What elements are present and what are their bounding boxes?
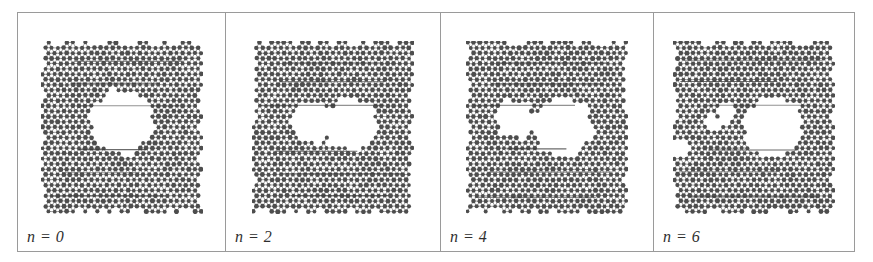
panel-label: n = 0 xyxy=(27,229,64,245)
panel-label: n = 6 xyxy=(663,229,700,245)
figure-container: n = 0 n = 2 n = 4 n = 6 xyxy=(0,0,873,262)
lattice-crystal xyxy=(673,41,835,214)
panel-strip: n = 0 n = 2 n = 4 n = 6 xyxy=(17,12,855,252)
simulation-panel: n = 2 xyxy=(226,13,441,251)
panel-label: n = 4 xyxy=(450,229,487,245)
simulation-panel: n = 0 xyxy=(18,13,226,251)
simulation-panel: n = 6 xyxy=(654,13,854,251)
lattice-crystal xyxy=(252,41,414,214)
lattice-crystal xyxy=(466,41,628,214)
panel-label: n = 2 xyxy=(235,229,272,245)
simulation-panel: n = 4 xyxy=(441,13,654,251)
lattice-crystal xyxy=(41,41,203,214)
